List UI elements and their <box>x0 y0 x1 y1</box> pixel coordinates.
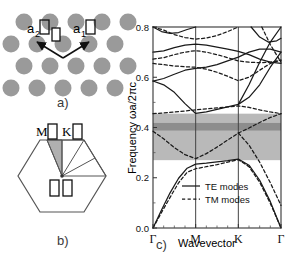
lattice-rod <box>42 58 59 75</box>
band-curve <box>262 27 281 62</box>
lattice-rod <box>3 80 20 97</box>
lattice-rod <box>29 80 46 97</box>
legend-label: TM modes <box>205 194 250 205</box>
lattice-vector-1-sub: 1 <box>81 29 86 39</box>
complete-band-gap <box>153 123 281 131</box>
legend-label: TE modes <box>205 181 249 192</box>
band-structure-plot: 0.00.20.40.60.8 ΓMKΓ Frequency ωa/2πc TE… <box>120 0 295 263</box>
lattice-rod <box>94 14 111 31</box>
band-curve <box>153 27 196 33</box>
glyph-box-gamma-1 <box>50 180 59 196</box>
band-curve <box>153 52 281 113</box>
lattice-rod <box>55 80 72 97</box>
brillouin-zone-diagram: M K <box>0 118 140 233</box>
panel-c-band-structure: 0.00.20.40.60.8 ΓMKΓ Frequency ωa/2πc TE… <box>120 0 295 263</box>
y-axis-label: Frequency ωa/2πc <box>126 82 138 174</box>
panel-c-tag: c) <box>156 237 167 252</box>
band-curve <box>153 44 281 63</box>
lattice-rod <box>94 58 111 75</box>
lattice-rod <box>3 36 20 53</box>
y-tick-label: 0.6 <box>136 72 149 83</box>
glyph-box-m <box>48 124 57 139</box>
glyph-box-k <box>73 124 82 139</box>
y-axis-ticks: 0.00.20.40.60.8 <box>136 22 157 234</box>
lattice-rod <box>81 80 98 97</box>
y-tick-label: 0.0 <box>136 223 149 234</box>
te-band-gap <box>153 114 281 160</box>
glyph-box-mid <box>52 28 60 41</box>
point-m-label: M <box>36 124 48 139</box>
panel-b-tag: b) <box>57 233 69 248</box>
band-curve <box>238 27 281 104</box>
y-tick-label: 0.8 <box>136 22 149 33</box>
point-k-label: K <box>62 124 72 139</box>
panel-b-brillouin-zone: M K <box>0 118 140 233</box>
panel-a-tag: a) <box>57 95 69 110</box>
figure-photonic-crystal: a 2 a 1 a) M K <box>0 0 295 263</box>
gamma-point-marker <box>60 174 64 178</box>
band-curve <box>153 60 281 81</box>
x-axis-label: Wavevector <box>178 237 236 249</box>
panel-a-lattice: a 2 a 1 <box>0 0 140 120</box>
band-gap-shading <box>153 114 281 160</box>
x-tick-label: Γ <box>278 232 285 246</box>
lattice-vector-1-label: a <box>73 21 81 36</box>
plot-legend: TE modesTM modes <box>182 181 250 205</box>
band-curve <box>153 51 281 63</box>
lattice-diagram: a 2 a 1 <box>0 0 140 120</box>
lattice-rod <box>68 58 85 75</box>
lattice-rods <box>3 14 137 97</box>
glyph-box-gamma-2 <box>63 180 72 196</box>
lattice-rod <box>16 58 33 75</box>
lattice-vector-2-label: a <box>27 21 35 36</box>
lattice-vector-2-sub: 2 <box>35 29 40 39</box>
